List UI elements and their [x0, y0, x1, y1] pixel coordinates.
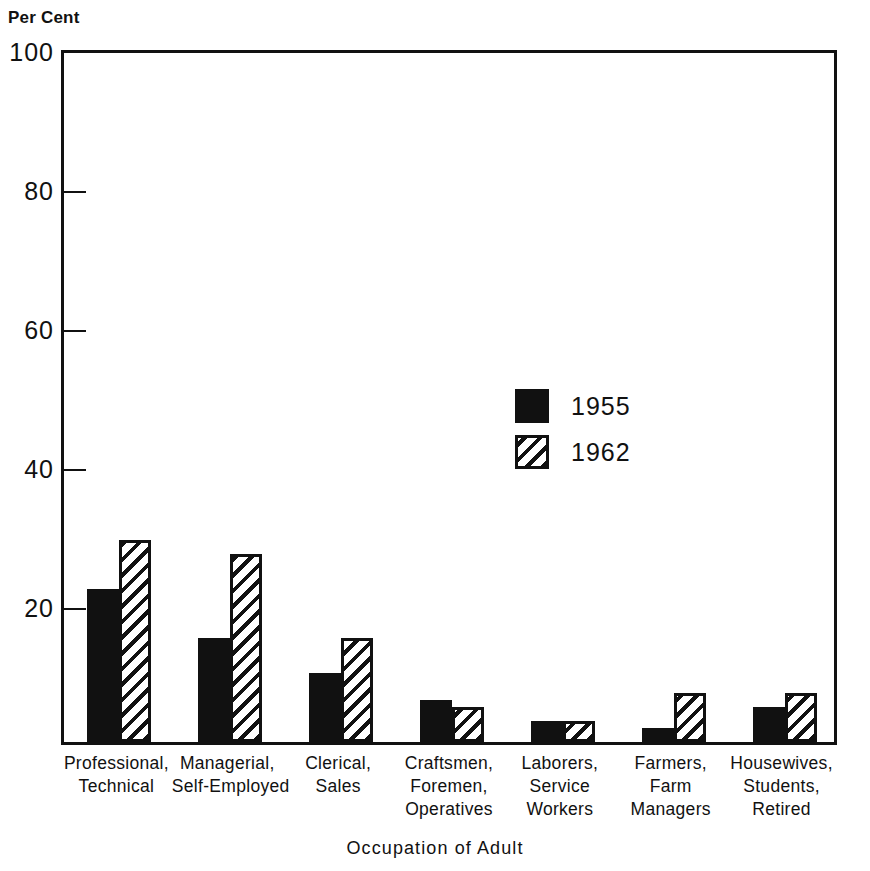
bar-1955 — [420, 700, 452, 742]
bars-layer — [64, 53, 834, 742]
category-label-line: Laborers, — [504, 752, 615, 775]
category-label: Housewives,Students,Retired — [726, 752, 837, 821]
category-label: Farmers,FarmManagers — [615, 752, 726, 821]
category-label-line: Managerial, — [172, 752, 283, 775]
bar-group — [87, 540, 151, 742]
legend-swatch-solid-icon — [515, 389, 549, 423]
y-tick-label: 20 — [24, 594, 54, 623]
category-label-line: Operatives — [394, 798, 505, 821]
category-label-line: Service — [504, 775, 615, 798]
legend-item-1962: 1962 — [515, 429, 631, 475]
category-label-line: Self-Employed — [172, 775, 283, 798]
y-tick-label: 60 — [24, 316, 54, 345]
legend-swatch-hatch-icon — [515, 435, 549, 469]
category-label-line: Sales — [283, 775, 394, 798]
bar-1962 — [563, 721, 595, 742]
bar-group — [753, 693, 817, 742]
y-axis-title: Per Cent — [8, 8, 80, 28]
legend-label-1955: 1955 — [571, 392, 631, 421]
x-axis-category-labels: Professional,TechnicalManagerial,Self-Em… — [61, 752, 837, 830]
bar-1955 — [309, 673, 341, 743]
bar-group — [420, 700, 484, 742]
legend: 1955 1962 — [515, 383, 631, 475]
bar-group — [642, 693, 706, 742]
category-label-line: Workers — [504, 798, 615, 821]
bar-1962 — [674, 693, 706, 742]
y-tick-label: 100 — [9, 38, 54, 67]
legend-label-1962: 1962 — [571, 438, 631, 467]
category-label: Professional,Technical — [61, 752, 172, 798]
plot-area: 10080604020 1955 1962 — [61, 50, 837, 745]
category-label-line: Retired — [726, 798, 837, 821]
bar-1955 — [642, 728, 674, 742]
category-label: Craftsmen,Foremen,Operatives — [394, 752, 505, 821]
category-label-line: Farm — [615, 775, 726, 798]
bar-1955 — [753, 707, 785, 742]
category-label-line: Students, — [726, 775, 837, 798]
y-tick-label: 40 — [24, 455, 54, 484]
bar-1962 — [119, 540, 151, 742]
category-label-line: Technical — [61, 775, 172, 798]
bar-group — [531, 721, 595, 742]
category-label-line: Foremen, — [394, 775, 505, 798]
category-label-line: Managers — [615, 798, 726, 821]
bar-1962 — [341, 638, 373, 742]
bar-1955 — [531, 721, 563, 742]
category-label-line: Clerical, — [283, 752, 394, 775]
category-label-line: Craftsmen, — [394, 752, 505, 775]
category-label-line: Farmers, — [615, 752, 726, 775]
bar-group — [309, 638, 373, 742]
y-tick-label: 80 — [24, 177, 54, 206]
category-label: Managerial,Self-Employed — [172, 752, 283, 798]
bar-1955 — [87, 589, 119, 742]
category-label-line: Professional, — [61, 752, 172, 775]
bar-1962 — [785, 693, 817, 742]
bar-group — [198, 554, 262, 742]
bar-1955 — [198, 638, 230, 742]
category-label: Clerical,Sales — [283, 752, 394, 798]
bar-1962 — [452, 707, 484, 742]
legend-item-1955: 1955 — [515, 383, 631, 429]
bar-1962 — [230, 554, 262, 742]
category-label: Laborers,ServiceWorkers — [504, 752, 615, 821]
x-axis-title: Occupation of Adult — [0, 838, 870, 859]
category-label-line: Housewives, — [726, 752, 837, 775]
